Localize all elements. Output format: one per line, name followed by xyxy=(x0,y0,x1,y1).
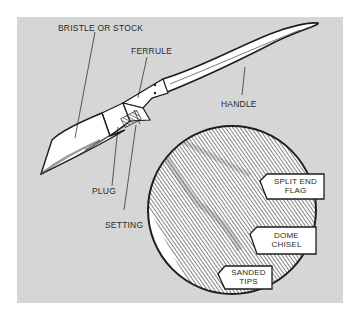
tag-split-end-flag: SPLIT END FLAG xyxy=(267,177,324,195)
tag-split-end-line1: SPLIT END xyxy=(267,177,324,186)
tag-sanded-tips: SANDED TIPS xyxy=(225,268,272,286)
tag-split-end-line2: FLAG xyxy=(267,186,324,195)
tag-sanded-line2: TIPS xyxy=(225,277,272,286)
label-bristle-or-stock: BRISTLE OR STOCK xyxy=(58,24,143,33)
label-setting: SETTING xyxy=(105,221,143,230)
tag-dome-line1: DOME xyxy=(257,231,316,240)
ferrule-shape xyxy=(102,79,168,136)
label-ferrule: FERRULE xyxy=(131,47,172,56)
label-handle: HANDLE xyxy=(221,100,257,109)
handle-shape xyxy=(152,23,318,98)
tag-dome-line2: CHISEL xyxy=(257,240,316,249)
tag-sanded-line1: SANDED xyxy=(225,268,272,277)
tag-dome-chisel: DOME CHISEL xyxy=(257,231,316,249)
label-plug: PLUG xyxy=(92,187,116,196)
brush-illustration xyxy=(0,0,360,320)
